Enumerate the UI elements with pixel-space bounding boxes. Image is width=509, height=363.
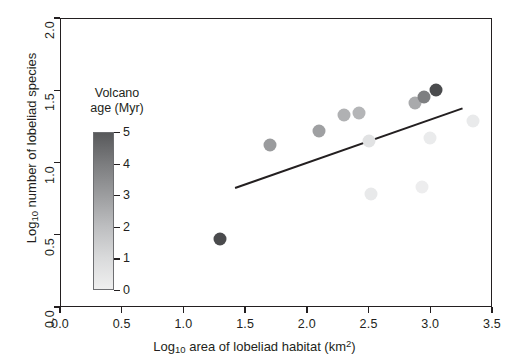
x-tick-label: 1.5 — [236, 317, 254, 331]
colorbar-tick — [114, 164, 120, 165]
data-point — [337, 108, 350, 121]
colorbar-title-line1: Volcano — [78, 86, 156, 101]
colorbar-tick — [114, 227, 120, 228]
x-tick — [430, 307, 431, 313]
x-tick-label: 3.0 — [421, 317, 439, 331]
colorbar-tick — [114, 290, 120, 291]
x-tick — [244, 307, 245, 313]
data-point — [430, 84, 443, 97]
x-tick — [59, 307, 60, 313]
data-point — [418, 91, 431, 104]
colorbar-tick — [114, 258, 120, 259]
colorbar-tick-label: 0 — [123, 283, 130, 297]
data-point — [365, 188, 378, 201]
y-tick-label: 0.0 — [43, 307, 57, 331]
data-point — [313, 124, 326, 137]
colorbar-tick-label: 1 — [123, 251, 130, 265]
x-tick-label: 3.5 — [483, 317, 501, 331]
x-tick — [183, 307, 184, 313]
colorbar-tick — [114, 195, 120, 196]
x-tick-label: 2.0 — [298, 317, 316, 331]
x-tick-label: 1.0 — [174, 317, 192, 331]
data-point — [362, 134, 375, 147]
colorbar-tick — [114, 132, 120, 133]
x-tick — [491, 307, 492, 313]
data-point — [263, 139, 276, 152]
data-point — [352, 107, 365, 120]
colorbar-tick-label: 3 — [123, 188, 130, 202]
data-point — [415, 181, 428, 194]
colorbar-tick-label: 4 — [123, 157, 130, 171]
data-point — [424, 131, 437, 144]
x-axis-title: Log10 area of lobeliad habitat (km2) — [0, 338, 509, 355]
colorbar-tick-label: 5 — [123, 125, 130, 139]
scatter-plot-figure: 0.00.51.01.52.02.53.03.50.00.51.01.52.0 … — [0, 0, 509, 363]
y-tick-label: 1.5 — [43, 90, 57, 114]
y-axis-title: Log10 number of lobeliad species — [24, 0, 40, 298]
x-tick-label: 0.5 — [113, 317, 131, 331]
y-tick-label: 0.5 — [43, 235, 57, 259]
x-tick-label: 2.5 — [360, 317, 378, 331]
x-tick — [306, 307, 307, 313]
data-point — [467, 114, 480, 127]
data-point — [214, 233, 227, 246]
colorbar-title-line2: age (Myr) — [78, 101, 156, 116]
colorbar-tick-label: 2 — [123, 220, 130, 234]
x-tick — [121, 307, 122, 313]
colorbar-wrapper: 543210 — [93, 132, 114, 290]
colorbar-gradient — [93, 132, 114, 290]
y-tick-label: 2.0 — [43, 18, 57, 42]
x-tick — [368, 307, 369, 313]
y-tick-label: 1.0 — [43, 163, 57, 187]
colorbar-legend: Volcano age (Myr) — [78, 86, 160, 116]
